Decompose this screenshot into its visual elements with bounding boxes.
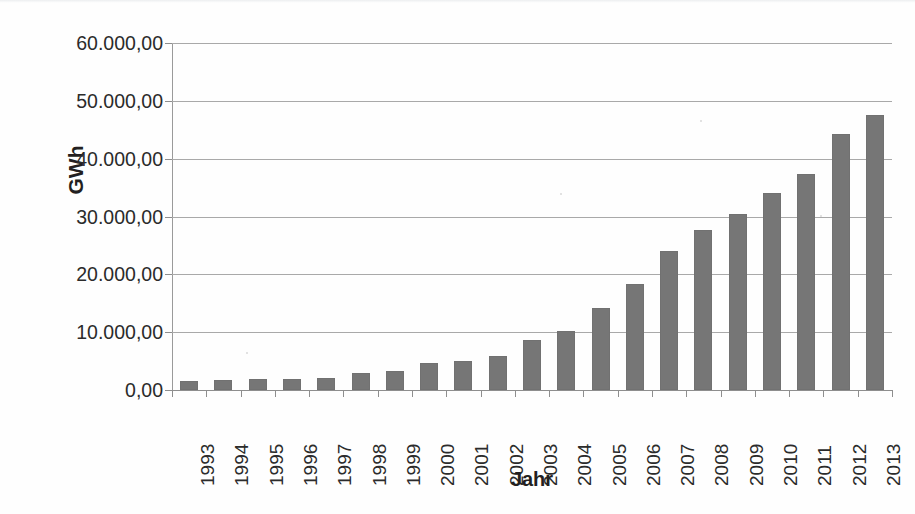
- bar[interactable]: [832, 134, 850, 390]
- bar-slot: [241, 43, 275, 390]
- bar[interactable]: [523, 340, 541, 390]
- bar[interactable]: [592, 308, 610, 390]
- bar-slot: [789, 43, 823, 390]
- y-axis-tick: [165, 101, 172, 102]
- bar[interactable]: [386, 371, 404, 390]
- y-axis-tick: [165, 43, 172, 44]
- bar-slot: [618, 43, 652, 390]
- scan-speckle: [700, 120, 702, 122]
- y-axis-tick-label: 40.000,00: [0, 147, 163, 170]
- x-axis-tick: [515, 390, 516, 397]
- scan-speckle: [560, 193, 562, 195]
- y-axis-tick: [165, 217, 172, 218]
- y-axis-tick-label: 50.000,00: [0, 89, 163, 112]
- y-axis-tick: [165, 274, 172, 275]
- x-axis-tick: [549, 390, 550, 397]
- y-axis-tick: [165, 332, 172, 333]
- bar[interactable]: [283, 379, 301, 390]
- bar[interactable]: [729, 214, 747, 390]
- bar-slot: [549, 43, 583, 390]
- x-axis-tick: [206, 390, 207, 397]
- bar[interactable]: [317, 378, 335, 390]
- x-axis-tick: [789, 390, 790, 397]
- bar-slot: [686, 43, 720, 390]
- bar[interactable]: [626, 284, 644, 390]
- x-axis-tick: [652, 390, 653, 397]
- bar[interactable]: [763, 193, 781, 390]
- y-axis-tick-label: 60.000,00: [0, 32, 163, 55]
- bar-slot: [515, 43, 549, 390]
- x-axis-tick: [481, 390, 482, 397]
- bar-slot: [446, 43, 480, 390]
- x-axis-tick: [823, 390, 824, 397]
- bars-container: [172, 43, 892, 390]
- scan-speckle: [820, 215, 822, 217]
- x-axis-tick: [241, 390, 242, 397]
- y-axis-tick-label: 30.000,00: [0, 205, 163, 228]
- bar[interactable]: [660, 251, 678, 390]
- scan-speckle: [246, 352, 248, 354]
- bar[interactable]: [249, 379, 267, 390]
- x-axis-tick: [755, 390, 756, 397]
- x-axis-tick: [583, 390, 584, 397]
- y-axis-tick: [165, 390, 172, 391]
- y-axis-tick-labels: 0,0010.000,0020.000,0030.000,0040.000,00…: [0, 0, 163, 514]
- bar-slot: [652, 43, 686, 390]
- bar-slot: [206, 43, 240, 390]
- x-axis-tick: [686, 390, 687, 397]
- x-axis-tick: [343, 390, 344, 397]
- bar-slot: [309, 43, 343, 390]
- x-axis-tick: [618, 390, 619, 397]
- bar[interactable]: [352, 373, 370, 390]
- bar-slot: [858, 43, 892, 390]
- bar-slot: [755, 43, 789, 390]
- y-axis-tick-label: 0,00: [0, 379, 163, 402]
- x-axis-tick: [721, 390, 722, 397]
- x-axis: 1993199419951996199719981999200020012002…: [172, 390, 892, 514]
- bar-slot: [721, 43, 755, 390]
- x-axis-tick: [858, 390, 859, 397]
- bar[interactable]: [797, 174, 815, 390]
- bar-slot: [583, 43, 617, 390]
- bar-slot: [275, 43, 309, 390]
- y-axis-tick: [165, 159, 172, 160]
- plot-area: [172, 43, 892, 390]
- bar[interactable]: [214, 380, 232, 390]
- x-axis-tick: [892, 390, 893, 397]
- bar[interactable]: [557, 331, 575, 390]
- x-axis-tick: [446, 390, 447, 397]
- bar-slot: [172, 43, 206, 390]
- bar-slot: [378, 43, 412, 390]
- bar[interactable]: [489, 356, 507, 390]
- y-axis-tick-label: 10.000,00: [0, 321, 163, 344]
- bar-slot: [343, 43, 377, 390]
- x-axis-tick: [275, 390, 276, 397]
- bar[interactable]: [866, 115, 884, 390]
- bar-chart: GWh 0,0010.000,0020.000,0030.000,0040.00…: [0, 0, 915, 514]
- bar-slot: [481, 43, 515, 390]
- y-axis-tick-label: 20.000,00: [0, 263, 163, 286]
- x-axis-tick: [172, 390, 173, 397]
- bar[interactable]: [420, 363, 438, 390]
- x-axis-tick: [309, 390, 310, 397]
- x-axis-title: Jahr: [172, 468, 892, 491]
- bar-slot: [412, 43, 446, 390]
- x-axis-tick: [378, 390, 379, 397]
- bar[interactable]: [180, 381, 198, 390]
- x-axis-tick: [412, 390, 413, 397]
- bar-slot: [823, 43, 857, 390]
- bar[interactable]: [454, 361, 472, 390]
- bar[interactable]: [694, 230, 712, 390]
